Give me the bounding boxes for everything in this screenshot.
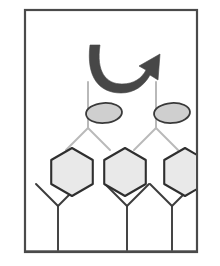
hexagon-ligand-center <box>104 148 146 196</box>
figure-panel <box>0 0 220 266</box>
hexagon-ligand-left <box>51 148 93 196</box>
hexagon-ligands-layer <box>51 148 206 196</box>
figure-canvas <box>0 0 220 266</box>
